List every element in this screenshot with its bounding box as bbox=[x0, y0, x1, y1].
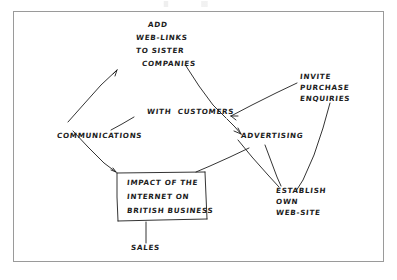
central-box-top bbox=[117, 172, 205, 173]
node-add-web-links: ADD bbox=[147, 20, 168, 31]
diagram-canvas: ADD WEB-LINKS TO SISTER COMPANIES INVITE… bbox=[0, 0, 397, 280]
node-invite-purchase-enquiries-line3: ENQUIRIES bbox=[299, 94, 350, 105]
node-establish-own-web-site: ESTABLISH bbox=[275, 186, 326, 197]
edge-advertising-establish-alt bbox=[238, 140, 279, 187]
edge-invite-junction bbox=[231, 83, 297, 116]
edge-invite-establish bbox=[296, 103, 330, 191]
node-sales: SALES bbox=[130, 243, 160, 254]
node-invite-purchase-enquiries-line2: PURCHASE bbox=[299, 83, 349, 94]
edge-junction-advertising bbox=[227, 119, 241, 134]
node-add-web-links-line2: WEB-LINKS bbox=[135, 33, 188, 44]
node-add-web-links-line3: TO SISTER bbox=[135, 46, 184, 57]
central-topic-line1: IMPACT OF THE bbox=[126, 178, 198, 189]
central-box-left bbox=[117, 173, 118, 221]
node-communications: COMMUNICATIONS bbox=[56, 131, 142, 142]
edge-communications-withcustomers bbox=[111, 117, 134, 130]
node-with-customers: WITH CUSTOMERS bbox=[146, 107, 234, 118]
node-establish-own-web-site-line2: OWN bbox=[275, 197, 298, 208]
central-topic-line2: INTERNET ON bbox=[126, 192, 189, 203]
central-box-bottom bbox=[118, 219, 207, 221]
node-add-web-links-line4: COMPANIES bbox=[141, 59, 196, 70]
central-topic-line3: BRITISH BUSINESS bbox=[126, 206, 213, 217]
node-invite-purchase-enquiries: INVITE bbox=[299, 72, 331, 83]
edge-communications-addweblinks bbox=[68, 70, 117, 122]
node-advertising: ADVERTISING bbox=[240, 131, 303, 142]
edge-advertising-central bbox=[196, 148, 249, 172]
node-establish-own-web-site-line3: WEB-SITE bbox=[275, 208, 321, 219]
